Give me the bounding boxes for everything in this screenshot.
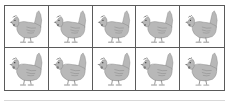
grid-cell <box>5 6 49 48</box>
grid-cell <box>93 48 137 90</box>
baseline-divider <box>4 100 225 101</box>
grid-cell <box>180 6 224 48</box>
grid-cell <box>93 6 137 48</box>
ten-frame-grid <box>4 5 225 91</box>
grid-cell <box>5 48 49 90</box>
grid-cell <box>136 48 180 90</box>
grid-cell <box>49 6 93 48</box>
grid-cell <box>180 48 224 90</box>
grid-cell <box>136 6 180 48</box>
grid-cell <box>49 48 93 90</box>
